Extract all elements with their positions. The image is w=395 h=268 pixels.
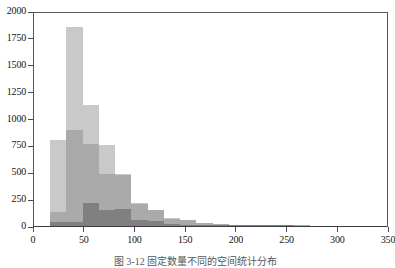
x-tick-label: 50 xyxy=(79,234,89,245)
y-tick-mark xyxy=(28,200,33,201)
histogram-bar xyxy=(180,225,196,227)
y-tick-label: 1750 xyxy=(7,32,26,43)
x-tick-mark xyxy=(388,227,389,232)
y-tick-label: 250 xyxy=(12,193,26,204)
x-tick-mark xyxy=(134,227,135,232)
x-tick-label: 250 xyxy=(279,234,293,245)
y-tick-mark xyxy=(28,146,33,147)
y-tick-label: 1500 xyxy=(7,59,26,70)
y-tick-mark xyxy=(28,173,33,174)
y-tick-mark xyxy=(28,92,33,93)
histogram-bar xyxy=(148,221,164,226)
x-tick-label: 300 xyxy=(330,234,344,245)
x-tick-mark xyxy=(185,227,186,232)
histogram-bar xyxy=(213,225,229,226)
x-tick-label: 0 xyxy=(31,234,36,245)
y-tick-label: 1000 xyxy=(7,113,26,124)
histogram-bar xyxy=(196,225,212,226)
y-tick-label: 500 xyxy=(12,166,26,177)
x-tick-mark xyxy=(33,227,34,232)
x-tick-mark xyxy=(83,227,84,232)
histogram-bar xyxy=(66,130,82,226)
x-tick-label: 100 xyxy=(127,234,141,245)
x-tick-label: 200 xyxy=(229,234,243,245)
histogram-bar xyxy=(294,225,310,226)
histogram-bar xyxy=(261,225,277,226)
x-tick-mark xyxy=(235,227,236,232)
x-tick-label: 150 xyxy=(178,234,192,245)
plot-area xyxy=(33,12,388,227)
x-tick-mark xyxy=(337,227,338,232)
histogram-bar xyxy=(50,222,66,226)
y-tick-mark xyxy=(28,12,33,13)
histogram-bar xyxy=(66,222,82,226)
histogram-bar xyxy=(83,203,99,226)
y-tick-label: 2000 xyxy=(7,5,26,16)
bars-layer xyxy=(34,13,387,226)
histogram-bar xyxy=(245,225,261,226)
histogram-bar xyxy=(164,224,180,226)
y-tick-mark xyxy=(28,119,33,120)
x-tick-mark xyxy=(286,227,287,232)
y-tick-label: 1250 xyxy=(7,86,26,97)
figure-caption: 图 3-12 固定数量不同的空间统计分布 xyxy=(0,256,391,268)
histogram-bar xyxy=(99,210,115,226)
y-tick-mark xyxy=(28,38,33,39)
histogram-bar xyxy=(277,225,293,226)
histogram-bar xyxy=(229,225,245,226)
y-tick-label: 0 xyxy=(21,220,26,231)
x-tick-label: 350 xyxy=(381,234,395,245)
y-tick-mark xyxy=(28,65,33,66)
y-tick-label: 750 xyxy=(12,139,26,150)
histogram-bar xyxy=(131,220,147,226)
histogram-bar xyxy=(115,209,131,226)
